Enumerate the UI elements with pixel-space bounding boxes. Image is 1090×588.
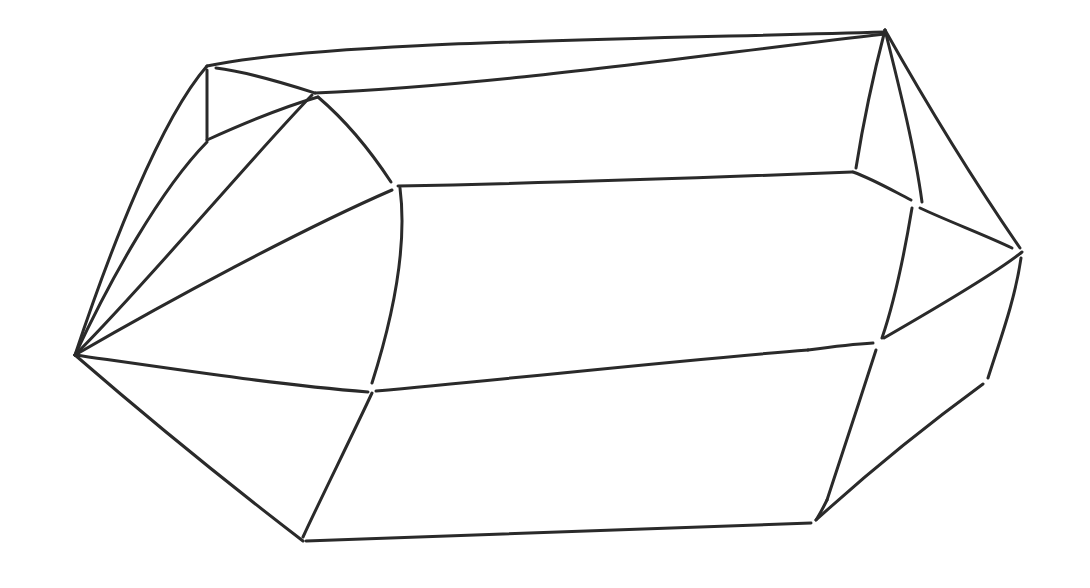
crystal-edge (207, 97, 318, 140)
crystal-edge (884, 252, 1022, 338)
crystal-edge (885, 30, 922, 202)
crystal-edge (216, 68, 315, 93)
crystal-edge (315, 34, 885, 93)
crystal-drawing (0, 0, 1090, 588)
crystal-edge (853, 172, 911, 200)
crystal-edge (75, 142, 207, 355)
crystal-edge (303, 393, 372, 537)
crystal-edge (306, 523, 811, 541)
crystal-edge (376, 350, 808, 391)
crystal-edges (75, 30, 1022, 541)
crystal-edge (207, 32, 885, 66)
crystal-edge (885, 30, 1020, 248)
crystal-edge (75, 355, 368, 392)
crystal-edge (398, 172, 852, 186)
crystal-edge (318, 97, 391, 182)
crystal-edge (882, 208, 912, 338)
crystal-edge (988, 258, 1021, 378)
crystal-edge (816, 384, 983, 520)
crystal-edge (75, 190, 392, 355)
crystal-edge (808, 343, 873, 350)
crystal-edge (372, 188, 402, 383)
crystal-edge (856, 30, 885, 168)
crystal-edge (827, 350, 876, 500)
crystal-edge (75, 95, 312, 355)
